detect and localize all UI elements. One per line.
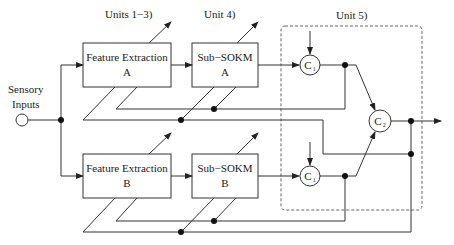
units-1-3-label: Units 1−3) — [105, 7, 152, 21]
c1-top-label: C1 — [300, 59, 320, 75]
feature-a-title: Feature Extraction — [83, 50, 171, 65]
c2-label: C2 — [370, 115, 390, 131]
junction-dot — [408, 151, 414, 157]
unit-5-label: Unit 5) — [336, 8, 367, 22]
junction-dot — [178, 117, 184, 123]
sensory-label-line1: Sensory — [8, 82, 43, 96]
junction-dot — [408, 118, 414, 124]
sokm-a-title: Sub−SOKM — [192, 50, 258, 65]
junction-dot — [342, 173, 348, 179]
feature-extraction-a-label: Feature Extraction A — [83, 50, 171, 80]
sensory-label-line2: Inputs — [12, 97, 40, 111]
sub-sokm-b-label: Sub−SOKM B — [192, 161, 258, 191]
unit-4-label: Unit 4) — [204, 7, 235, 21]
junction-dot — [211, 218, 217, 224]
sub-sokm-a-label: Sub−SOKM A — [192, 50, 258, 80]
junction-dot — [211, 106, 217, 112]
feature-extraction-b-label: Feature Extraction B — [83, 161, 171, 191]
sokm-b-sub: B — [192, 176, 258, 191]
junction-dot — [58, 117, 64, 123]
sokm-a-sub: A — [192, 65, 258, 80]
feature-a-sub: A — [83, 65, 171, 80]
sokm-b-title: Sub−SOKM — [192, 161, 258, 176]
junction-dot — [178, 229, 184, 235]
sensory-input-node — [16, 114, 28, 126]
block-diagram: Units 1−3) Unit 4) Unit 5) Sensory Input… — [0, 0, 454, 245]
c1-bottom-label: C1 — [300, 170, 320, 186]
junction-dot — [342, 62, 348, 68]
feature-b-title: Feature Extraction — [83, 161, 171, 176]
feature-b-sub: B — [83, 176, 171, 191]
